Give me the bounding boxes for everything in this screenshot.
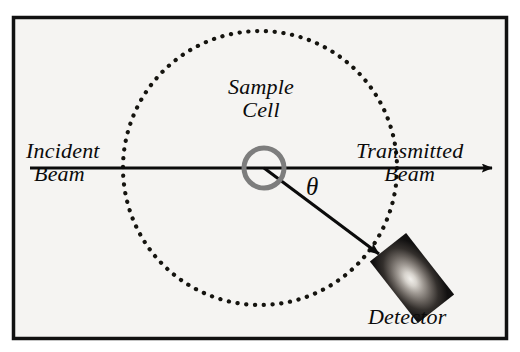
detector-label: Detector: [368, 306, 447, 329]
incident-beam-label-line1: Incident: [26, 138, 100, 163]
incident-beam-label-line2: Beam: [26, 163, 100, 186]
sample-cell-label-line2: Cell: [196, 99, 326, 122]
figure-canvas: Incident Beam Transmitted Beam Sample Ce…: [0, 0, 520, 352]
sample-cell-label-line1: Sample: [228, 74, 294, 99]
transmitted-beam-label-line2: Beam: [356, 163, 463, 186]
transmitted-beam-label-line1: Transmitted: [356, 138, 463, 163]
incident-beam-label: Incident Beam: [26, 140, 100, 186]
scattering-angle-label: θ: [306, 174, 318, 200]
sample-cell-label: Sample Cell: [196, 76, 326, 122]
transmitted-beam-label: Transmitted Beam: [356, 140, 463, 186]
